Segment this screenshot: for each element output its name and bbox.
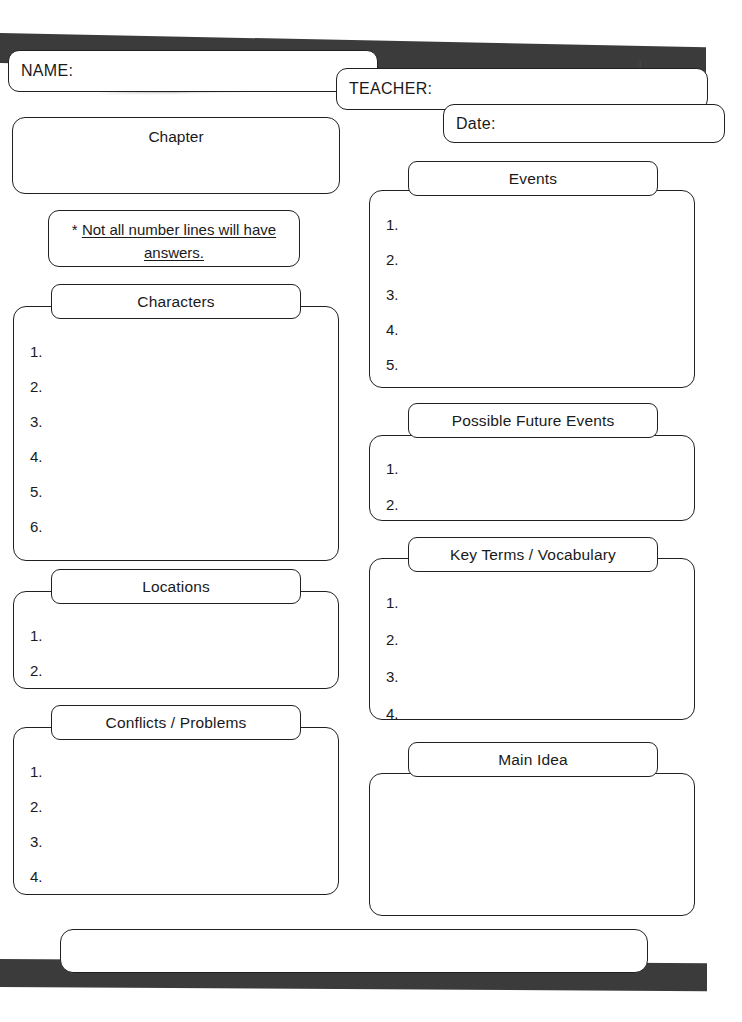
list-item[interactable]: 6. (30, 519, 339, 534)
chapter-title: Chapter (12, 128, 340, 146)
list-item[interactable]: 1. (386, 595, 695, 610)
list-item[interactable]: 2. (386, 497, 695, 512)
locations-header-tab: Locations (51, 569, 301, 604)
main-idea-header-tab: Main Idea (408, 742, 658, 777)
characters-header-tab: Characters (51, 284, 301, 319)
note-text: * Not all number lines will have answers… (49, 218, 299, 265)
main-idea-title: Main Idea (498, 751, 567, 768)
future-events-title: Possible Future Events (452, 412, 615, 429)
list-item[interactable]: 5. (30, 484, 339, 499)
characters-title: Characters (137, 293, 214, 310)
events-header-tab: Events (408, 161, 658, 196)
list-item[interactable]: 4. (30, 869, 339, 884)
date-field[interactable]: Date: (443, 104, 725, 143)
note-asterisk: * (72, 221, 78, 238)
key-terms-header-tab: Key Terms / Vocabulary (408, 537, 658, 572)
main-idea-body-box[interactable] (369, 773, 695, 916)
locations-list: 1. 2. (13, 614, 339, 678)
list-item[interactable]: 2. (386, 632, 695, 647)
name-field-label: NAME: (21, 62, 73, 80)
list-item[interactable]: 1. (30, 764, 339, 779)
note-line-2: answers. (144, 244, 204, 261)
list-item[interactable]: 3. (386, 287, 695, 302)
list-item[interactable]: 2. (30, 379, 339, 394)
note-line-1: Not all number lines will have (82, 221, 276, 238)
conflicts-header-tab: Conflicts / Problems (51, 705, 301, 740)
list-item[interactable]: 3. (386, 669, 695, 684)
list-item[interactable]: 1. (30, 628, 339, 643)
teacher-field-label: TEACHER: (349, 80, 432, 98)
future-events-header-tab: Possible Future Events (408, 403, 658, 438)
worksheet-page: NAME: TEACHER: Date: Chapter * Not all n… (0, 0, 742, 1022)
list-item[interactable]: 2. (30, 799, 339, 814)
locations-title: Locations (142, 578, 210, 595)
list-item[interactable]: 1. (30, 344, 339, 359)
list-item[interactable]: 3. (30, 834, 339, 849)
events-list: 1. 2. 3. 4. 5. (369, 203, 695, 372)
note-box: * Not all number lines will have answers… (48, 210, 300, 267)
events-title: Events (509, 170, 557, 187)
key-terms-title: Key Terms / Vocabulary (450, 546, 616, 563)
list-item[interactable]: 4. (386, 322, 695, 337)
list-item[interactable]: 4. (386, 706, 695, 721)
name-field[interactable]: NAME: (8, 50, 378, 92)
list-item[interactable]: 1. (386, 217, 695, 232)
future-events-list: 1. 2. (369, 447, 695, 512)
date-field-label: Date: (456, 115, 496, 133)
footer-box[interactable] (60, 929, 648, 973)
characters-list: 1. 2. 3. 4. 5. 6. (13, 330, 339, 534)
list-item[interactable]: 4. (30, 449, 339, 464)
list-item[interactable]: 2. (30, 663, 339, 678)
list-item[interactable]: 2. (386, 252, 695, 267)
list-item[interactable]: 1. (386, 461, 695, 476)
conflicts-list: 1. 2. 3. 4. (13, 750, 339, 884)
key-terms-list: 1. 2. 3. 4. (369, 581, 695, 721)
list-item[interactable]: 3. (30, 414, 339, 429)
list-item[interactable]: 5. (386, 357, 695, 372)
conflicts-title: Conflicts / Problems (106, 714, 247, 731)
